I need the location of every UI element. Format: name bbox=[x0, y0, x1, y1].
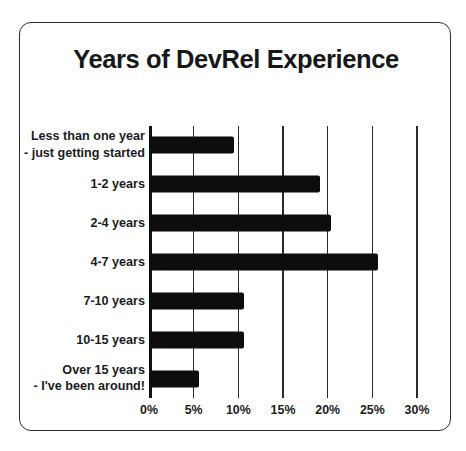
bar bbox=[149, 137, 234, 154]
bar-row: 7-10 years bbox=[149, 281, 417, 320]
x-axis-tick-label: 5% bbox=[185, 403, 203, 417]
x-axis-tick-label: 25% bbox=[360, 403, 385, 417]
category-label: 10-15 years bbox=[0, 331, 145, 348]
category-label: 2-4 years bbox=[0, 215, 145, 232]
x-axis-tick-label: 10% bbox=[226, 403, 251, 417]
bar-row: 2-4 years bbox=[149, 204, 417, 243]
category-label: 4-7 years bbox=[0, 254, 145, 271]
chart-card: Years of DevRel Experience 0%5%10%15%20%… bbox=[19, 22, 451, 431]
category-label: 1-2 years bbox=[0, 176, 145, 193]
category-label: Over 15 years - I've been around! bbox=[0, 362, 145, 395]
x-axis-tick-label: 20% bbox=[315, 403, 340, 417]
bar bbox=[149, 331, 244, 348]
category-label: 7-10 years bbox=[0, 293, 145, 310]
bar bbox=[149, 176, 320, 193]
bar-row: Over 15 years - I've been around! bbox=[149, 359, 417, 398]
x-axis-tick-label: 0% bbox=[140, 403, 158, 417]
bar bbox=[149, 253, 378, 270]
bar bbox=[149, 292, 244, 309]
x-axis-tick-label: 30% bbox=[405, 403, 430, 417]
category-label: Less than one year - just getting starte… bbox=[0, 129, 145, 162]
bar-row: 10-15 years bbox=[149, 320, 417, 359]
bar bbox=[149, 215, 331, 232]
bar-row: 4-7 years bbox=[149, 243, 417, 282]
bar bbox=[149, 370, 199, 387]
bar-row: 1-2 years bbox=[149, 165, 417, 204]
bar-chart-plot-area: 0%5%10%15%20%25%30%Less than one year - … bbox=[149, 126, 417, 398]
bar-row: Less than one year - just getting starte… bbox=[149, 126, 417, 165]
x-axis-tick-label: 15% bbox=[271, 403, 296, 417]
page-title: Years of DevRel Experience bbox=[20, 45, 452, 74]
